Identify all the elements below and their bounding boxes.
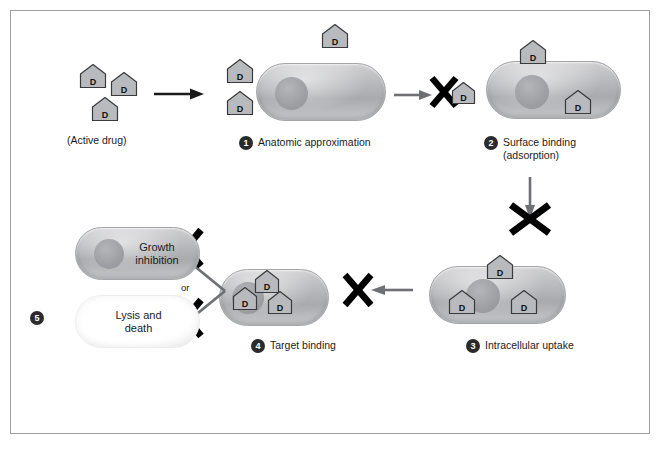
step-3-label: Intracellular uptake <box>485 339 574 352</box>
arrow-to-step-1 <box>154 87 204 101</box>
diagram-canvas: D D D (Active drug) D D <box>11 11 649 433</box>
active-drug-label: (Active drug) <box>67 134 127 146</box>
outcome-growth-inhibition: Growth inhibition <box>75 227 200 280</box>
drug-molecule-target-bound: D <box>232 286 258 311</box>
lysis-death-label: Lysis and death <box>76 309 201 334</box>
drug-molecule: D <box>226 58 254 84</box>
block-x-step-4 <box>341 271 375 309</box>
bacterial-cell-step-3: D D D <box>429 266 566 324</box>
drug-molecule-bound: D <box>564 89 592 115</box>
step-badge: 1 <box>239 136 253 150</box>
outcome-lysis-death: Lysis and death <box>75 295 200 348</box>
nucleoid <box>515 75 549 109</box>
block-x-step-3 <box>506 201 554 237</box>
drug-molecule-target-bound: D <box>267 290 293 315</box>
nucleoid <box>94 239 124 269</box>
nucleoid <box>275 77 308 110</box>
bacterial-cell-step-2 <box>486 61 621 119</box>
growth-inhibition-label: Growth inhibition <box>122 241 192 266</box>
step-2-label: Surface binding (adsorption) <box>503 136 576 161</box>
step-4-label: Target binding <box>270 339 336 352</box>
step-badge: 2 <box>484 136 498 150</box>
step-2: 2 Surface binding (adsorption) <box>484 136 576 161</box>
arrow-to-step-4 <box>371 284 413 296</box>
drug-molecule: D <box>110 71 138 97</box>
drug-molecule-internal: D <box>486 254 514 280</box>
bacterial-cell-step-1 <box>256 63 386 121</box>
step-badge: 5 <box>30 311 44 325</box>
step-3: 3 Intracellular uptake <box>466 339 574 353</box>
step-badge: 3 <box>466 339 480 353</box>
drug-molecule: D <box>226 90 254 116</box>
step-badge: 4 <box>251 339 265 353</box>
drug-molecule: D <box>321 23 349 49</box>
figure-frame: D D D (Active drug) D D <box>10 10 650 434</box>
drug-molecule: D <box>79 63 107 89</box>
arrow-to-step-2 <box>394 89 432 101</box>
step-4: 4 Target binding <box>251 339 336 353</box>
step-1-label: Anatomic approximation <box>258 136 371 149</box>
bacterial-cell-step-4: D D D <box>219 269 329 326</box>
step-5: 5 <box>30 311 44 325</box>
drug-molecule-bound: D <box>519 39 547 65</box>
drug-molecule-internal: D <box>448 289 476 315</box>
drug-molecule: D <box>451 81 476 105</box>
step-1: 1 Anatomic approximation <box>239 136 371 150</box>
drug-molecule-internal: D <box>510 289 538 315</box>
or-label: or <box>181 282 189 293</box>
drug-molecule: D <box>91 96 119 122</box>
